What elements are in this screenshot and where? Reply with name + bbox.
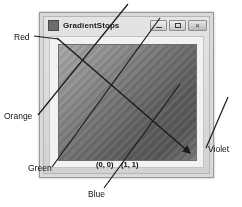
close-button[interactable]: ✕ — [188, 20, 207, 31]
maximize-icon — [175, 23, 181, 28]
app-window[interactable]: GradientStops ✕ — [39, 12, 214, 178]
app-icon — [48, 20, 59, 31]
annotation-label-violet: Violet — [208, 145, 229, 154]
maximize-button[interactable] — [169, 20, 186, 31]
annotation-label-orange: Orange — [4, 112, 32, 121]
gradient-end-coordinate: (1, 1) — [121, 161, 139, 169]
window-title: GradientStops — [63, 21, 150, 30]
gradient-start-coordinate: (0, 0) — [96, 161, 114, 169]
minimize-button[interactable] — [150, 20, 167, 31]
close-icon: ✕ — [195, 23, 200, 29]
minimize-icon — [156, 27, 162, 28]
gradient-canvas — [58, 44, 197, 161]
window-controls: ✕ — [150, 20, 207, 31]
annotation-label-red: Red — [14, 33, 30, 42]
figure-container: GradientStops ✕ — [0, 0, 242, 207]
client-area — [49, 36, 204, 168]
title-bar[interactable]: GradientStops ✕ — [44, 17, 209, 34]
annotation-label-green: Green — [28, 164, 52, 173]
annotation-label-blue: Blue — [88, 190, 105, 199]
window-frame: GradientStops ✕ — [43, 16, 210, 174]
